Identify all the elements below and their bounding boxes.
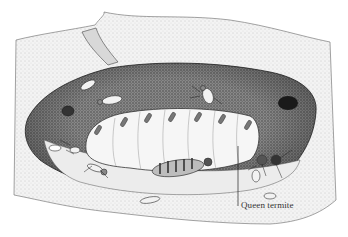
chamber-hole-left <box>62 106 74 116</box>
chamber-hole <box>278 96 298 110</box>
queen-termite-label: Queen termite <box>241 200 294 210</box>
termite-chamber-illustration <box>0 0 348 237</box>
